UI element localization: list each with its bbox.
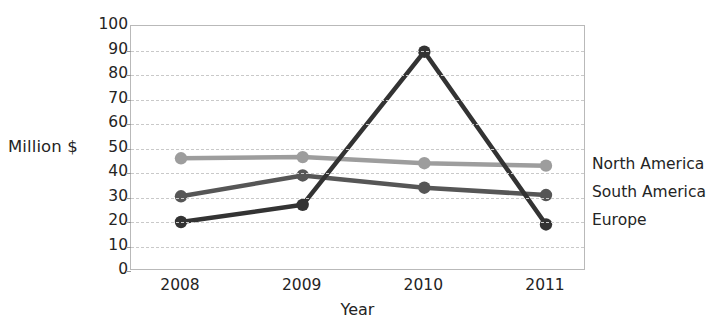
series-line	[181, 52, 546, 225]
data-point	[418, 157, 430, 169]
y-tick-label: 90	[88, 42, 128, 58]
plot-area	[130, 25, 585, 270]
x-tick-label: 2009	[262, 276, 342, 294]
y-axis-tick-labels: 1009080706050403020100	[88, 16, 128, 278]
gridline	[131, 149, 584, 150]
x-tick-label: 2008	[140, 276, 220, 294]
data-point	[418, 182, 430, 194]
data-point	[296, 169, 308, 181]
data-point	[540, 159, 552, 171]
y-tick-label: 20	[88, 213, 128, 229]
y-tick-mark	[126, 173, 131, 174]
legend-item: South America	[592, 178, 723, 206]
data-point	[175, 190, 187, 202]
x-tick-label: 2010	[383, 276, 463, 294]
gridline	[131, 124, 584, 125]
series-europe	[175, 46, 552, 231]
x-axis-tick-labels: 2008200920102011	[130, 276, 585, 300]
y-tick-mark	[126, 222, 131, 223]
y-tick-mark	[126, 149, 131, 150]
x-axis-title: Year	[130, 300, 585, 319]
y-tick-label: 60	[88, 115, 128, 131]
gridline	[131, 173, 584, 174]
y-tick-label: 10	[88, 238, 128, 254]
legend-item: Europe	[592, 206, 723, 234]
data-point	[175, 152, 187, 164]
x-tick-label: 2011	[505, 276, 585, 294]
data-point	[540, 218, 552, 230]
data-point	[296, 151, 308, 163]
y-tick-mark	[126, 198, 131, 199]
series-line	[181, 157, 546, 166]
data-point	[296, 199, 308, 211]
y-tick-mark	[126, 75, 131, 76]
legend: North AmericaSouth AmericaEurope	[592, 150, 723, 234]
y-tick-label: 30	[88, 189, 128, 205]
series-line	[181, 175, 546, 196]
gridline	[131, 222, 584, 223]
y-tick-label: 80	[88, 66, 128, 82]
y-tick-label: 70	[88, 91, 128, 107]
y-tick-mark	[126, 100, 131, 101]
gridline	[131, 198, 584, 199]
line-chart: Million $ 1009080706050403020100 2008200…	[0, 0, 723, 325]
data-point	[540, 189, 552, 201]
data-point	[418, 46, 430, 58]
y-tick-label: 100	[88, 17, 128, 33]
y-tick-mark	[126, 51, 131, 52]
y-tick-mark	[126, 271, 131, 272]
gridline	[131, 75, 584, 76]
y-axis-title: Million $	[8, 137, 100, 156]
y-tick-mark	[126, 124, 131, 125]
y-tick-label: 0	[88, 262, 128, 278]
cropped-title-remnant	[210, 0, 610, 12]
y-tick-label: 40	[88, 164, 128, 180]
gridline	[131, 51, 584, 52]
legend-item: North America	[592, 150, 723, 178]
gridline	[131, 100, 584, 101]
y-tick-label: 50	[88, 140, 128, 156]
y-tick-mark	[126, 247, 131, 248]
gridline	[131, 247, 584, 248]
